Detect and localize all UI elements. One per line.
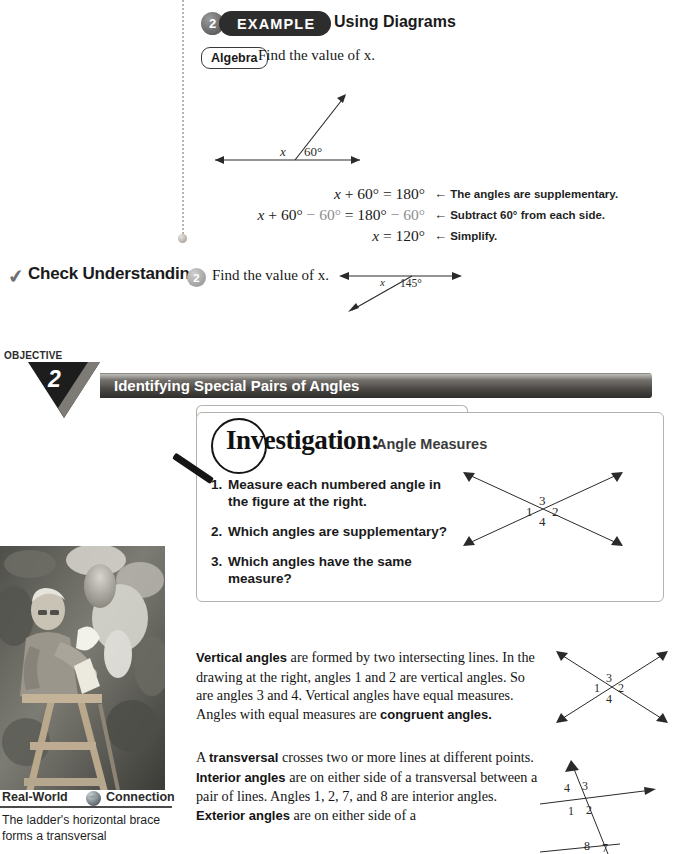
term-interior-angles: Interior angles bbox=[196, 770, 286, 785]
equation-steps: x + 60° = 180° x + 60° − 60° = 180° − 60… bbox=[200, 183, 425, 246]
list-item-number: 1. bbox=[211, 476, 228, 510]
angle-label-4: 4 bbox=[606, 692, 612, 706]
list-item: 1. Measure each numbered angle in the fi… bbox=[211, 476, 461, 510]
vertical-angles-diagram: 1 3 2 4 bbox=[548, 640, 676, 740]
angle-label-3: 3 bbox=[539, 493, 546, 508]
angle-label-1: 1 bbox=[526, 504, 533, 519]
equation-note-1-text: The angles are supplementary. bbox=[450, 188, 618, 200]
equation-note-3-text: Simplify. bbox=[450, 230, 497, 242]
list-item-number: 2. bbox=[211, 523, 228, 540]
example-label-pill: EXAMPLE bbox=[219, 11, 331, 36]
list-item: 3. Which angles have the same measure? bbox=[211, 553, 461, 587]
objective-title: Identifying Special Pairs of Angles bbox=[114, 377, 359, 394]
check-understanding-number: 2 bbox=[187, 268, 206, 287]
angle-label-2: 2 bbox=[552, 504, 559, 519]
angle-label-2: 2 bbox=[586, 803, 592, 817]
check-understanding-text: Find the value of x. bbox=[212, 267, 329, 284]
left-arrow-icon: ← bbox=[434, 186, 447, 201]
equation-note-2: ← Subtract 60° from each side. bbox=[434, 204, 678, 225]
list-item-text: Which angles are supplementary? bbox=[228, 523, 447, 540]
term-vertical-angles: Vertical angles bbox=[196, 650, 287, 665]
equation-notes: ← The angles are supplementary. ← Subtra… bbox=[434, 183, 678, 246]
investigation-heading: Investigation: bbox=[226, 425, 379, 456]
equation-note-3: ← Simplify. bbox=[434, 225, 678, 246]
example-diagram-x-label: x bbox=[279, 144, 286, 159]
angle-label-2: 2 bbox=[618, 681, 624, 695]
check-understanding-label: Check Understanding bbox=[28, 264, 200, 284]
transversal-text-a: crosses two or more lines at different p… bbox=[278, 749, 533, 765]
investigation-subheading: Angle Measures bbox=[376, 436, 487, 452]
investigation-steps-list: 1. Measure each numbered angle in the fi… bbox=[211, 476, 461, 600]
list-item-number: 3. bbox=[211, 553, 228, 587]
example-angle-diagram: x 60° bbox=[200, 78, 450, 178]
check-understanding-diagram: x 145° bbox=[330, 262, 475, 317]
margin-dotted-rule bbox=[182, 0, 186, 238]
real-world-caption: The ladder's horizontal brace forms a tr… bbox=[2, 812, 172, 844]
equation-step-1: x + 60° = 180° bbox=[200, 183, 425, 204]
angle-label-7: 7 bbox=[602, 841, 608, 854]
angle-label-1: 1 bbox=[568, 804, 574, 818]
term-congruent-angles: congruent angles. bbox=[380, 707, 492, 722]
equation-note-1: ← The angles are supplementary. bbox=[434, 183, 678, 204]
term-transversal: transversal bbox=[209, 750, 278, 765]
transversal-text-c: are on either side of a bbox=[290, 807, 416, 823]
equation-step-2: x + 60° − 60° = 180° − 60° bbox=[200, 204, 425, 225]
list-item: 2. Which angles are supplementary? bbox=[211, 523, 461, 540]
angle-label-4: 4 bbox=[539, 514, 546, 529]
transversal-lead: A bbox=[196, 749, 209, 765]
objective-triangle-icon bbox=[28, 362, 106, 420]
example-title: Using Diagrams bbox=[334, 13, 456, 31]
margin-dot-end bbox=[178, 234, 187, 243]
angle-label-4: 4 bbox=[564, 781, 570, 795]
example-prompt-text: Find the value of x. bbox=[258, 47, 375, 63]
list-item-text: Measure each numbered angle in the figur… bbox=[228, 476, 461, 510]
left-arrow-icon: ← bbox=[434, 207, 447, 222]
equation-step-3: x = 120° bbox=[200, 225, 425, 246]
check-diagram-angle-label: 145° bbox=[400, 277, 422, 289]
real-world-title-left: Real-World bbox=[2, 790, 68, 804]
equation-note-2-text: Subtract 60° from each side. bbox=[450, 209, 605, 221]
globe-icon bbox=[86, 791, 101, 806]
vertical-angles-paragraph: Vertical angles are formed by two inters… bbox=[196, 648, 541, 724]
check-diagram-x-label: x bbox=[379, 276, 385, 288]
real-world-underline bbox=[0, 806, 172, 808]
real-world-photo bbox=[0, 546, 165, 790]
left-arrow-icon: ← bbox=[434, 228, 447, 243]
objective-number: 2 bbox=[48, 366, 61, 393]
example-prompt: Find the value of x. bbox=[258, 47, 375, 64]
investigation-crossing-lines-diagram: 1 3 2 4 bbox=[453, 462, 633, 562]
angle-label-3: 3 bbox=[582, 779, 588, 793]
real-world-title-right: Connection bbox=[106, 790, 175, 804]
angle-label-8: 8 bbox=[584, 839, 590, 853]
checkmark-icon: ✔ bbox=[6, 264, 25, 289]
example-diagram-angle-label: 60° bbox=[304, 144, 322, 159]
transversal-paragraph: A transversal crosses two or more lines … bbox=[196, 748, 541, 825]
angle-label-1: 1 bbox=[594, 681, 600, 695]
objective-kicker: OBJECTIVE bbox=[4, 350, 62, 361]
term-exterior-angles: Exterior angles bbox=[196, 808, 290, 823]
transversal-diagram: 4 3 1 2 8 7 bbox=[540, 752, 678, 854]
list-item-text: Which angles have the same measure? bbox=[228, 553, 461, 587]
angle-label-3: 3 bbox=[606, 671, 612, 685]
